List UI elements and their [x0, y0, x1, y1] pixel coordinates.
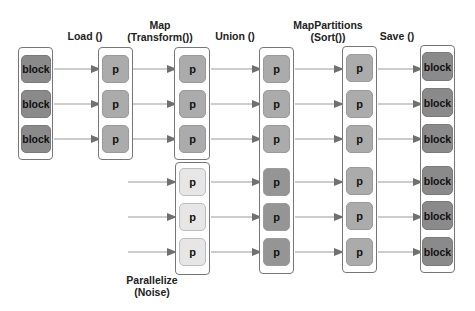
source-block-3: block	[21, 125, 51, 153]
noise-partition-3: p	[179, 238, 206, 266]
save-block-6: block	[422, 237, 453, 266]
union-partition-2: p	[263, 90, 290, 118]
save-block-1: block	[422, 52, 453, 81]
save-block-4: block	[422, 166, 453, 195]
save-block-5: block	[422, 201, 453, 230]
union-partition-3: p	[263, 125, 290, 153]
mappartitions-partition-3: p	[346, 125, 373, 153]
union-partition-1: p	[263, 55, 290, 83]
mappartitions-partition-1: p	[346, 54, 373, 82]
save-block-2: block	[422, 88, 453, 117]
map-partition-2: p	[179, 90, 206, 118]
noise-partition-1: p	[179, 168, 206, 196]
noise-partition-2: p	[179, 203, 206, 231]
mappartitions-partition-6: p	[346, 238, 373, 266]
load-partition-2: p	[102, 90, 129, 118]
map-partition-3: p	[179, 125, 206, 153]
mappartitions-partition-2: p	[346, 90, 373, 118]
mappartitions-partition-5: p	[346, 202, 373, 230]
union-partition-5: p	[263, 203, 290, 231]
union-partition-6: p	[263, 238, 290, 266]
load-partition-3: p	[102, 125, 129, 153]
load-partition-1: p	[102, 55, 129, 83]
source-block-1: block	[21, 55, 51, 83]
source-block-2: block	[21, 90, 51, 118]
map-partition-1: p	[179, 55, 206, 83]
mappartitions-partition-4: p	[346, 167, 373, 195]
save-block-3: block	[422, 124, 453, 153]
union-partition-4: p	[263, 168, 290, 196]
arrows-layer	[0, 0, 475, 311]
